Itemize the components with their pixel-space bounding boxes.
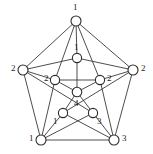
node-label-outer-left: 2 <box>11 64 16 73</box>
node-label-inner-left: 2 <box>44 74 49 83</box>
graph-edge <box>24 75 40 135</box>
node-label-outer-bottom-left: 1 <box>29 134 34 143</box>
graph-node-inner-left <box>50 75 59 84</box>
graph-edge <box>101 84 113 135</box>
graph-node-outer-bottom-right <box>109 135 119 145</box>
graph-node-center <box>72 87 82 97</box>
node-label-center: 4 <box>74 99 79 108</box>
graph-edge <box>28 59 73 69</box>
graph-node-outer-left <box>18 65 28 75</box>
graph-edge <box>57 26 75 76</box>
graph-node-inner-top <box>72 53 81 62</box>
graph-canvas <box>0 0 153 154</box>
graph-node-outer-top <box>71 16 81 26</box>
node-label-outer-bottom-right: 3 <box>122 134 127 143</box>
graph-edge <box>115 75 131 135</box>
graph-node-outer-bottom-left <box>36 135 46 145</box>
node-label-outer-right: 2 <box>141 64 146 73</box>
graph-edge <box>81 82 96 90</box>
graph-edge <box>42 84 54 135</box>
node-label-inner-bottom-right: 3 <box>97 117 102 126</box>
graph-node-inner-bottom-left <box>58 108 67 117</box>
node-layer <box>18 16 138 145</box>
graph-node-outer-right <box>128 65 138 75</box>
graph-figure: 12213122134 <box>0 0 153 154</box>
graph-edge <box>82 59 129 69</box>
graph-edge <box>59 82 73 90</box>
node-label-inner-top: 1 <box>74 43 79 52</box>
node-label-inner-right: 2 <box>107 74 112 83</box>
graph-node-inner-right <box>95 75 104 84</box>
graph-edge <box>78 26 98 76</box>
graph-edge <box>80 96 90 110</box>
node-label-outer-top: 1 <box>73 3 78 12</box>
node-label-inner-bottom-left: 1 <box>53 117 58 126</box>
